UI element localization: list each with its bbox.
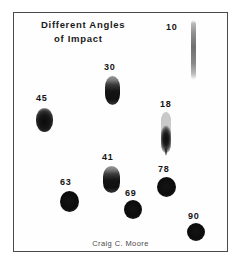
- stain-body-18: [161, 112, 171, 153]
- stain-body-45: [36, 108, 53, 132]
- stain-label-18: 18: [160, 99, 172, 109]
- stain-shape-63: [60, 191, 79, 212]
- stain-label-78: 78: [158, 164, 170, 174]
- stain-shape-69: [124, 200, 142, 219]
- stain-shape-18: [161, 112, 171, 153]
- figure-title-line-1: Different Angles: [41, 19, 125, 30]
- stain-label-45: 45: [36, 93, 48, 103]
- stain-body-78: [157, 177, 176, 197]
- stain-label-69: 69: [125, 188, 137, 198]
- stain-body-30: [105, 76, 120, 105]
- stain-label-90: 90: [188, 211, 200, 221]
- stain-label-63: 63: [60, 177, 72, 187]
- figure-title-line-2: of Impact: [54, 33, 103, 44]
- stain-body-41: [103, 166, 120, 193]
- stain-label-10: 10: [166, 22, 178, 32]
- stain-label-41: 41: [102, 152, 114, 162]
- stain-shape-41: [103, 166, 120, 193]
- bloodstain-angle-figure: Different Angles of Impact 1030451841636…: [0, 0, 241, 266]
- figure-credit: Craig C. Moore: [0, 239, 241, 248]
- stain-shape-78: [157, 177, 176, 197]
- stain-shape-30: [105, 76, 120, 105]
- stain-label-30: 30: [104, 62, 116, 72]
- stain-body-69: [124, 200, 142, 219]
- stain-shape-10: [191, 20, 196, 80]
- stain-body-10: [191, 20, 196, 80]
- stain-shape-45: [36, 108, 53, 132]
- stain-body-63: [60, 191, 79, 212]
